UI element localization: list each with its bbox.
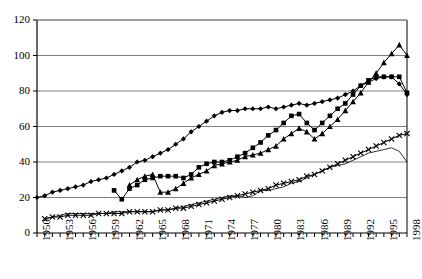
series-cross xyxy=(42,131,409,221)
x-axis-tick-label: 1974 xyxy=(226,219,237,241)
y-axis-tick-label: 100 xyxy=(2,50,30,61)
x-axis-tick-label: 1950 xyxy=(41,219,52,241)
series-triangle xyxy=(127,42,410,195)
grid-lines xyxy=(37,20,407,198)
x-axis-tick-label: 1956 xyxy=(87,219,98,241)
x-axis-tick-label: 1983 xyxy=(295,219,306,241)
x-axis-tick-label: 1953 xyxy=(64,219,75,241)
x-axis-tick-label: 1989 xyxy=(342,219,353,241)
x-axis-tick-label: 1971 xyxy=(203,219,214,241)
y-axis-tick-label: 60 xyxy=(2,121,30,132)
y-axis-tick-label: 0 xyxy=(2,227,30,238)
x-axis-tick-label: 1965 xyxy=(157,219,168,241)
x-axis-tick-label: 1986 xyxy=(319,219,330,241)
y-axis-tick-label: 80 xyxy=(2,85,30,96)
chart-container: 020406080100120 195019531956195919621965… xyxy=(0,0,422,279)
y-axis-tick-label: 120 xyxy=(2,14,30,25)
x-axis-ticks xyxy=(33,20,407,237)
x-axis-tick-label: 1968 xyxy=(180,219,191,241)
y-axis-tick-label: 40 xyxy=(2,156,30,167)
x-axis-tick-label: 1995 xyxy=(388,219,399,241)
x-axis-tick-label: 1962 xyxy=(134,219,145,241)
series-plain-line xyxy=(45,148,407,219)
x-axis-tick-label: 1959 xyxy=(110,219,121,241)
y-axis-tick-label: 20 xyxy=(2,192,30,203)
x-axis-tick-label: 1980 xyxy=(272,219,283,241)
x-axis-tick-label: 1992 xyxy=(365,219,376,241)
data-series-layer xyxy=(34,42,410,222)
x-axis-tick-label: 1998 xyxy=(411,219,422,241)
x-axis-tick-label: 1977 xyxy=(249,219,260,241)
